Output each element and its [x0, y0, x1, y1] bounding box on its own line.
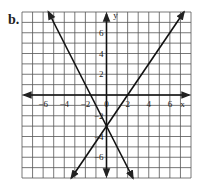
x-tick-label: −2: [81, 99, 91, 109]
x-tick-label: 2: [125, 99, 130, 109]
y-tick-label: 2: [99, 69, 104, 79]
x-tick-label: 0: [104, 99, 109, 109]
y-tick-label: −6: [94, 152, 104, 162]
y-tick-label: −2: [94, 111, 104, 121]
x-tick-label: 4: [147, 99, 152, 109]
y-tick-label: 6: [99, 28, 104, 38]
y-axis-label: y: [113, 10, 118, 20]
x-tick-label: −4: [59, 99, 69, 109]
x-axis-label: x: [180, 99, 185, 109]
y-tick-label: −4: [94, 132, 104, 142]
y-tick-label: 4: [99, 49, 104, 59]
coordinate-graph: −6−4−20246642−2−4−6xy: [0, 0, 203, 185]
x-tick-label: 6: [168, 99, 173, 109]
x-tick-label: −6: [38, 99, 48, 109]
